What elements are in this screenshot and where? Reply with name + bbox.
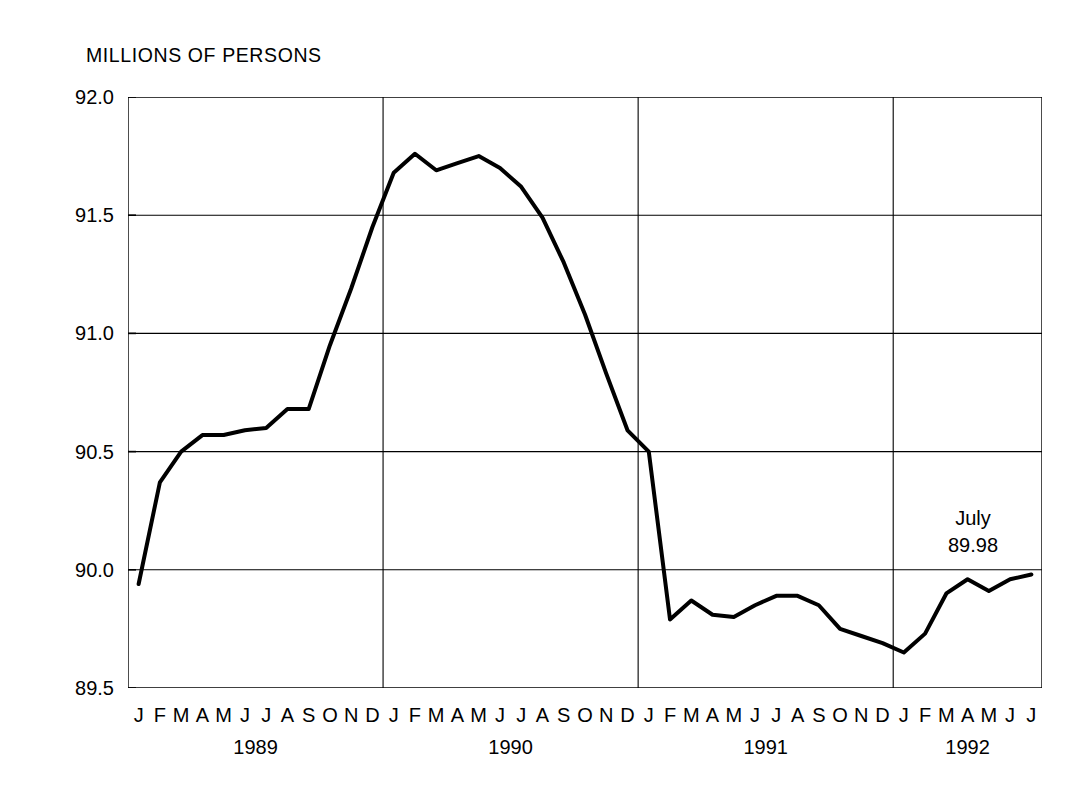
x-axis-month-label: J (766, 704, 787, 726)
y-axis-tick-marks (128, 97, 136, 688)
x-axis-month-label: J (999, 704, 1020, 726)
x-axis-month-label: M (681, 704, 702, 726)
vertical-year-divider-gridlines (383, 97, 893, 688)
annotation-july-value: July 89.98 (948, 505, 998, 559)
x-axis-month-label: J (511, 704, 532, 726)
x-axis-year-label: 1989 (128, 736, 383, 758)
x-axis-year-label: 1991 (638, 736, 893, 758)
x-axis-month-label: J (638, 704, 659, 726)
x-axis-month-label: J (234, 704, 255, 726)
x-axis-month-label: M (723, 704, 744, 726)
x-axis-month-label: M (213, 704, 234, 726)
x-axis-month-label: J (128, 704, 149, 726)
axis-frame (128, 97, 1042, 688)
x-axis-month-label: D (362, 704, 383, 726)
x-axis-month-label: A (192, 704, 213, 726)
x-axis-year-label: 1990 (383, 736, 638, 758)
x-axis-month-label: F (659, 704, 680, 726)
x-axis-month-label: J (744, 704, 765, 726)
annotation-value: 89.98 (948, 532, 998, 559)
x-axis-month-label: J (489, 704, 510, 726)
plot-svg (128, 97, 1042, 688)
horizontal-gridlines (128, 215, 1042, 570)
x-axis-month-label: M (426, 704, 447, 726)
x-axis-month-label: A (787, 704, 808, 726)
x-axis-month-label: M (171, 704, 192, 726)
x-axis-month-label: A (702, 704, 723, 726)
x-axis-month-label: J (893, 704, 914, 726)
x-axis-month-label: A (277, 704, 298, 726)
x-axis-month-label: O (574, 704, 595, 726)
x-axis-month-label: A (447, 704, 468, 726)
x-axis-month-label: N (851, 704, 872, 726)
x-axis-month-label: N (596, 704, 617, 726)
annotation-label: July (948, 505, 998, 532)
x-axis-month-label: S (808, 704, 829, 726)
x-axis-month-label: F (914, 704, 935, 726)
x-axis-month-label: F (404, 704, 425, 726)
x-axis-month-label: M (468, 704, 489, 726)
chart-container: MILLIONS OF PERSONS 89.590.090.591.091.5… (0, 0, 1090, 804)
x-axis-month-label: J (383, 704, 404, 726)
x-axis-month-label: A (532, 704, 553, 726)
y-axis-tick-label: 89.5 (38, 678, 114, 698)
y-axis-tick-label: 92.0 (38, 87, 114, 107)
x-axis-month-label: A (957, 704, 978, 726)
y-axis-tick-label: 90.5 (38, 442, 114, 462)
chart-title: MILLIONS OF PERSONS (86, 44, 322, 67)
y-axis-tick-label: 91.0 (38, 323, 114, 343)
data-series-line (139, 154, 1032, 653)
x-axis-month-label: F (149, 704, 170, 726)
x-axis-month-label: D (872, 704, 893, 726)
x-axis-year-label: 1992 (893, 736, 1042, 758)
x-axis-month-label: N (341, 704, 362, 726)
x-axis-month-label: O (319, 704, 340, 726)
x-axis-month-label: S (298, 704, 319, 726)
x-axis-month-label: M (936, 704, 957, 726)
x-axis-month-label: D (617, 704, 638, 726)
y-axis-tick-label: 91.5 (38, 205, 114, 225)
x-axis-month-label: S (553, 704, 574, 726)
y-axis-tick-label: 90.0 (38, 560, 114, 580)
x-axis-month-label: J (256, 704, 277, 726)
x-axis-month-label: M (978, 704, 999, 726)
plot-area (128, 97, 1042, 688)
x-axis-month-label: J (1021, 704, 1042, 726)
x-axis-month-label: O (829, 704, 850, 726)
